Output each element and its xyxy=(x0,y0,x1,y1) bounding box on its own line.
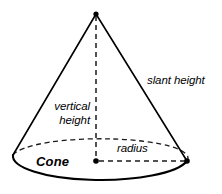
slant-height-label: slant height xyxy=(147,74,205,88)
cone-illustration xyxy=(0,0,222,194)
center-dot xyxy=(93,158,99,164)
cone-diagram: slant height vertical height radius Cone xyxy=(0,0,222,194)
left-slant-line xyxy=(13,14,96,155)
radius-label: radius xyxy=(117,142,148,156)
vertical-height-label: vertical height xyxy=(12,100,90,127)
apex-dot xyxy=(93,11,98,16)
vertical-height-label-line1: vertical xyxy=(12,100,90,114)
right-edge-dot xyxy=(184,158,190,164)
cone-shape-label: Cone xyxy=(36,154,69,169)
vertical-height-label-line2: height xyxy=(12,114,90,128)
